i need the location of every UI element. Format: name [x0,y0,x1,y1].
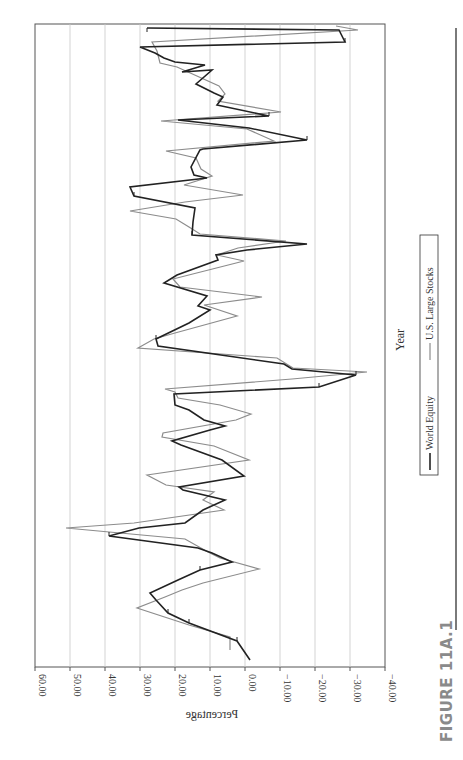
figure-label: FIGURE 11A.1 [438,620,456,742]
tick-label: 0.00 [247,674,258,692]
tick-marks [35,667,385,671]
tick-label: 40.00 [107,674,118,697]
tick-label: −20.00 [317,674,328,702]
tick-label: 20.00 [177,674,188,697]
x-axis-title: Year [393,329,407,351]
value-axis-labels: 60.00 50.00 40.00 30.00 20.00 10.00 0.00… [37,674,398,702]
rotated-line-chart: 60.00 50.00 40.00 30.00 20.00 10.00 0.00… [0,0,463,760]
tick-label: 30.00 [142,674,153,697]
tick-label: −10.00 [282,674,293,702]
legend: World Equity U.S. Large Stocks [420,235,438,475]
y-axis-title: Percentage [186,707,239,721]
tick-label: 50.00 [72,674,83,697]
tick-label: 60.00 [37,674,48,697]
tick-label: −30.00 [352,674,363,702]
legend-label-world-equity: World Equity [424,396,435,450]
legend-label-us-large-stocks: U.S. Large Stocks [424,267,435,340]
tick-label: −40.00 [387,674,398,702]
tick-label: 10.00 [212,674,223,697]
